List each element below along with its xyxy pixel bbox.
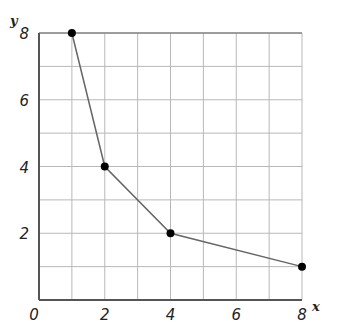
- y-tick-labels: 2468: [19, 25, 29, 243]
- x-tick-label: 2: [100, 306, 110, 324]
- data-point: [167, 229, 175, 237]
- x-tick-label: 8: [297, 306, 307, 324]
- x-axis-label: x: [311, 299, 320, 314]
- data-point: [68, 29, 76, 37]
- data-point: [298, 263, 306, 271]
- x-tick-label: 6: [231, 306, 241, 324]
- y-tick-label: 2: [19, 225, 29, 243]
- data-series: [68, 29, 306, 271]
- chart: 2468 02468 y x: [0, 0, 339, 336]
- y-tick-label: 6: [19, 92, 29, 110]
- grid: [39, 33, 302, 300]
- x-tick-label: 4: [166, 306, 176, 324]
- y-tick-label: 4: [19, 159, 29, 177]
- y-axis-label: y: [9, 13, 19, 28]
- y-tick-label: 8: [19, 25, 29, 43]
- series-line: [72, 33, 302, 267]
- x-tick-labels: 02468: [29, 306, 307, 324]
- data-point: [101, 163, 109, 171]
- x-tick-label: 0: [29, 306, 39, 324]
